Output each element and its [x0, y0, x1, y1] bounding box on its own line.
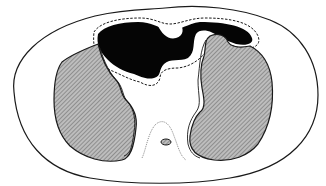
small-oval-structure [161, 139, 171, 145]
cross-section-diagram [0, 0, 326, 186]
